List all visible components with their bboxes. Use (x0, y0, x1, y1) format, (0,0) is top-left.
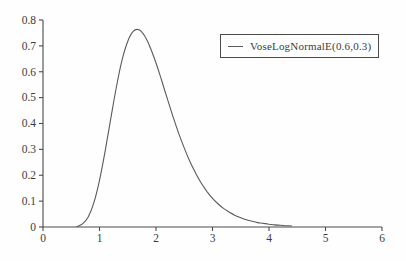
legend-line-sample (228, 46, 243, 47)
legend-label: VoseLogNormalE(0.6,0.3) (250, 40, 371, 52)
x-tick-label: 3 (210, 232, 216, 244)
y-tick-label: 0 (30, 221, 36, 233)
y-tick-label: 0.3 (22, 143, 37, 155)
x-tick-label: 4 (266, 232, 272, 244)
x-tick-label: 0 (40, 232, 46, 244)
y-tick-label: 0.7 (22, 40, 37, 52)
x-tick-label: 5 (323, 232, 329, 244)
x-tick-label: 6 (379, 232, 385, 244)
y-tick-label: 0.5 (22, 91, 37, 103)
y-tick-label: 0.4 (22, 117, 37, 129)
y-tick-label: 0.2 (22, 169, 37, 181)
x-tick-label: 2 (153, 232, 159, 244)
lognormal-distribution-figure: 012345600.10.20.30.40.50.60.70.8 VoseLog… (0, 0, 406, 261)
distribution-curve (77, 29, 292, 226)
y-tick-label: 0.6 (22, 66, 37, 78)
y-tick-label: 0.8 (22, 14, 37, 26)
y-tick-label: 0.1 (22, 195, 37, 207)
x-tick-label: 1 (97, 232, 103, 244)
legend-box: VoseLogNormalE(0.6,0.3) (220, 34, 379, 58)
